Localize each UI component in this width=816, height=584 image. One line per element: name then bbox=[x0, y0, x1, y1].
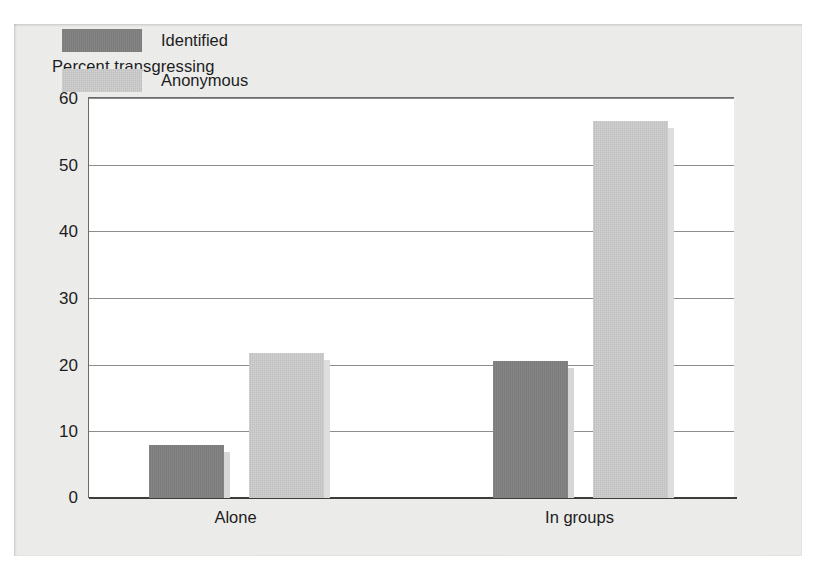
y-axis-tick-label-50: 50 bbox=[22, 156, 78, 173]
legend-label-anonymous: Anonymous bbox=[161, 71, 248, 90]
bar-body bbox=[249, 353, 324, 498]
legend-label-identified: Identified bbox=[161, 31, 228, 50]
bar-body bbox=[493, 361, 568, 498]
bar-shadow bbox=[224, 452, 230, 498]
bar-body bbox=[593, 121, 668, 498]
bar-in-groups-identified bbox=[493, 361, 574, 498]
figure-root: Percent transgressing 6050403020100 Iden… bbox=[0, 0, 816, 584]
bar-shadow bbox=[568, 368, 574, 498]
x-axis-tick-label-alone: Alone bbox=[214, 508, 256, 527]
y-axis-tick-label-0: 0 bbox=[22, 489, 78, 506]
legend-entry-anonymous: Anonymous bbox=[62, 64, 248, 96]
scan-edge-shadow-left bbox=[14, 24, 17, 556]
plot-area: 6050403020100 bbox=[88, 97, 734, 498]
bar-body bbox=[149, 445, 224, 498]
legend-swatch-anonymous bbox=[62, 69, 142, 92]
bar-shadow bbox=[668, 128, 674, 498]
bar-in-groups-anonymous bbox=[593, 121, 674, 498]
legend-swatch-identified bbox=[62, 29, 142, 52]
bar-alone-anonymous bbox=[249, 353, 330, 498]
y-axis-tick-label-20: 20 bbox=[22, 356, 78, 373]
x-axis-tick-label-in-groups: In groups bbox=[545, 508, 614, 527]
y-axis-tick-label-40: 40 bbox=[22, 223, 78, 240]
legend-entry-identified: Identified bbox=[62, 24, 248, 56]
bar-shadow bbox=[324, 360, 330, 498]
y-axis-tick-label-30: 30 bbox=[22, 290, 78, 307]
y-axis-tick-label-10: 10 bbox=[22, 423, 78, 440]
bar-alone-identified bbox=[149, 445, 230, 498]
chart-legend: Identified Anonymous bbox=[62, 24, 248, 104]
